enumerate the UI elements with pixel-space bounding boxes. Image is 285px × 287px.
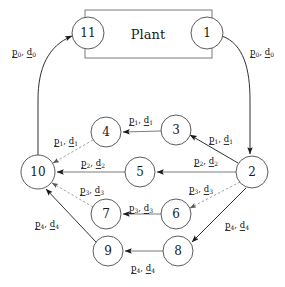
- node-1[interactable]: 1: [191, 17, 223, 49]
- node-11[interactable]: 11: [72, 17, 104, 49]
- node-10[interactable]: 10: [21, 155, 55, 189]
- node-5-label: 5: [136, 165, 144, 179]
- node-2-label: 2: [248, 165, 256, 179]
- node-3-label: 3: [172, 123, 180, 137]
- edge-label-p1-2to3: p1, d1: [209, 134, 233, 145]
- node-7[interactable]: 7: [91, 199, 121, 229]
- node-7-label: 7: [102, 207, 110, 221]
- node-11-label: 11: [80, 26, 95, 40]
- edge-label-p3-2to6: p3, d3: [189, 184, 213, 195]
- svg-text:p3, d3: p3, d3: [189, 184, 213, 195]
- edge-label-p0-left: p0, d0: [12, 47, 36, 58]
- node-8[interactable]: 8: [163, 236, 193, 266]
- edge-label-p4-2to8: p4, d4: [225, 220, 249, 231]
- svg-text:p0, d0: p0, d0: [250, 47, 274, 58]
- diagram-canvas: Plant 11 1 4: [0, 0, 285, 287]
- edge-9-to-10: [46, 189, 96, 242]
- svg-text:p1, d1: p1, d1: [209, 134, 233, 145]
- node-3[interactable]: 3: [161, 115, 191, 145]
- edge-label-p3-7to10: p3, d3: [80, 185, 104, 196]
- edge-label-p1-4to10: p1, d1: [54, 136, 78, 147]
- svg-text:p2, d2: p2, d2: [81, 158, 105, 169]
- edge-label-p3-6to7: p3, d3: [129, 203, 153, 214]
- edge-label-p0-right: p0, d0: [250, 47, 274, 58]
- node-5[interactable]: 5: [125, 157, 155, 187]
- edge-label-p4-9to10: p4, d4: [35, 219, 59, 230]
- svg-text:p1, d1: p1, d1: [54, 136, 78, 147]
- node-10-label: 10: [30, 165, 45, 179]
- node-1-label: 1: [203, 26, 211, 40]
- svg-text:p1, d1: p1, d1: [129, 115, 153, 126]
- edge-2-to-8: [192, 188, 246, 242]
- node-9[interactable]: 9: [93, 236, 123, 266]
- svg-text:p3, d3: p3, d3: [129, 203, 153, 214]
- svg-text:p4, d4: p4, d4: [131, 263, 155, 274]
- node-9-label: 9: [104, 244, 112, 258]
- edge-label-p4-8to9: p4, d4: [131, 263, 155, 274]
- svg-text:p2, d2: p2, d2: [194, 156, 218, 167]
- svg-text:p4, d4: p4, d4: [35, 219, 59, 230]
- plant-box-label: Plant: [131, 27, 166, 42]
- edge-label-p1-3to4: p1, d1: [129, 115, 153, 126]
- edge-label-p2-5to10: p2, d2: [81, 158, 105, 169]
- edge-3-to-4: [123, 131, 161, 132]
- node-6[interactable]: 6: [161, 199, 191, 229]
- d-subscript: 0: [32, 51, 36, 58]
- svg-text:p4, d4: p4, d4: [225, 220, 249, 231]
- edge-label-p2-2to5: p2, d2: [194, 156, 218, 167]
- svg-text:p3, d3: p3, d3: [80, 185, 104, 196]
- svg-text:p0, d0: p0, d0: [12, 47, 36, 58]
- node-4[interactable]: 4: [91, 117, 121, 147]
- node-2[interactable]: 2: [236, 156, 268, 188]
- plant-network-diagram: Plant 11 1 4: [0, 0, 285, 287]
- node-6-label: 6: [172, 207, 180, 221]
- node-4-label: 4: [102, 125, 110, 139]
- node-8-label: 8: [174, 244, 182, 258]
